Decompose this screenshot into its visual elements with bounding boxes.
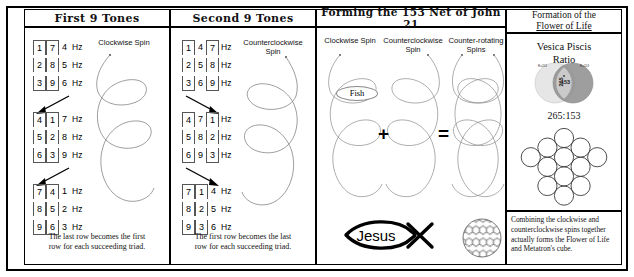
- triad-cell: 1: [33, 40, 46, 55]
- triad-row: 6 3 9 Hz: [33, 148, 82, 162]
- triad-cell: 6: [33, 148, 46, 163]
- triad-mid-3: 7 1 4 Hz 8 2 5 Hz 9 3 6 Hz: [182, 184, 231, 234]
- triad-cell: 7: [195, 112, 206, 126]
- triad-cell: 1: [46, 112, 59, 127]
- triad-cell: 6: [182, 148, 195, 163]
- triad-row: 1 7 4 Hz: [33, 40, 82, 54]
- triad-cell: 2: [59, 202, 70, 216]
- unit-label: Hz: [70, 202, 82, 216]
- triad-cell: 4: [33, 112, 46, 127]
- left-caption: The last row becomes the first row for e…: [26, 232, 168, 253]
- triad-cell: 3: [206, 148, 219, 163]
- flower-of-life-diagram: [520, 128, 608, 208]
- equals-symbol: =: [438, 124, 449, 143]
- triad-row: 2 5 8 Hz: [182, 58, 231, 72]
- triad-left-2: 4 1 7 Hz 5 2 8 Hz 6 3 9 Hz: [33, 112, 82, 162]
- panel-flower-header: Formation of the Flower of Life: [506, 9, 622, 33]
- panel-153-net-header: Forming the 153 Net of John 21: [316, 9, 506, 27]
- triad-cell: 2: [195, 202, 208, 216]
- mid-caption: The first row becomes the last row for e…: [172, 232, 314, 253]
- triad-cell: 3: [33, 76, 46, 91]
- triad-cell: 4: [208, 184, 219, 198]
- flower-of-life-small: [462, 218, 502, 258]
- triad-row: 8 5 2 Hz: [33, 202, 82, 216]
- triad-cell: 7: [33, 184, 46, 199]
- triad-cell: 5: [195, 58, 206, 72]
- unit-label: Hz: [219, 58, 231, 72]
- triad-cell: 4: [46, 184, 59, 199]
- triad-row: 6 9 3 Hz: [182, 148, 231, 162]
- triad-cell: 1: [195, 184, 208, 199]
- triad-cell: 2: [46, 130, 59, 144]
- triad-row: 5 2 8 Hz: [33, 130, 82, 144]
- triad-cell: 4: [195, 40, 206, 54]
- triad-cell: 8: [33, 202, 46, 216]
- triad-row: 4 7 1 Hz: [182, 112, 231, 126]
- triad-mid-2: 4 7 1 Hz 5 8 2 Hz 6 9 3 Hz: [182, 112, 231, 162]
- triad-cell: 6: [195, 76, 206, 90]
- flower-note-box: Combining the clockwise and counterclock…: [506, 211, 622, 265]
- panel-second-9-tones-title: Second 9 Tones: [192, 12, 293, 25]
- mid-spin-label: Counterclockwise Spin: [237, 38, 309, 57]
- counterclockwise-spiral-mid: [236, 56, 308, 221]
- panel-flower-title-line2: Flower of Life: [536, 21, 591, 32]
- triad-row: 8 2 5 Hz: [182, 202, 231, 216]
- left-caption-line2: row for each succeeding triad.: [26, 242, 168, 252]
- triad-cell: 5: [182, 130, 195, 144]
- jesus-fish-label: Jesus: [356, 227, 395, 244]
- fish-tag-text: Fish: [350, 88, 365, 98]
- triad-cell: 7: [59, 112, 70, 126]
- unit-label: Hz: [70, 112, 82, 126]
- triad-row: 4 1 7 Hz: [33, 112, 82, 126]
- unit-label: Hz: [70, 58, 82, 72]
- triad-cell: 9: [206, 76, 219, 91]
- triad-left-3: 7 4 1 Hz 8 5 2 Hz 9 6 3 Hz: [33, 184, 82, 234]
- triad-mid-1: 1 4 7 Hz 2 5 8 Hz 3 6 9 Hz: [182, 40, 231, 90]
- triad-cell: 8: [46, 58, 59, 72]
- left-spin-label: Clockwise Spin: [86, 38, 162, 47]
- unit-label: Hz: [70, 130, 82, 144]
- unit-label: Hz: [219, 40, 231, 54]
- triad-row: 7 4 1 Hz: [33, 184, 82, 198]
- flower-note-text: Combining the clockwise and counterclock…: [511, 215, 609, 253]
- triad-cell: 1: [206, 112, 219, 127]
- vesica-right-tag: R=153: [580, 64, 589, 68]
- triad-cell: 5: [46, 202, 59, 216]
- unit-label: Hz: [70, 40, 82, 54]
- triad-cell: 8: [206, 58, 219, 72]
- panel-first-9-tones-header: First 9 Tones: [24, 9, 170, 27]
- triad-cell: 9: [59, 148, 70, 162]
- triad-cell: 2: [33, 58, 46, 72]
- unit-label: Hz: [70, 148, 82, 162]
- mid-caption-line1: The first row becomes the last: [172, 232, 314, 242]
- triad-row: 2 8 5 Hz: [33, 58, 82, 72]
- triad-cell: 8: [182, 202, 195, 216]
- unit-label: Hz: [70, 184, 82, 198]
- triad-cell: 4: [182, 112, 195, 127]
- triad-cell: 9: [46, 76, 59, 91]
- triad-row: 5 8 2 Hz: [182, 130, 231, 144]
- triad-row: 1 4 7 Hz: [182, 40, 231, 54]
- triad-cell: 6: [59, 76, 70, 90]
- triad-cell: 3: [182, 76, 195, 91]
- triad-cell: 9: [195, 148, 206, 162]
- triad-cell: 8: [59, 130, 70, 144]
- panel-flower-title-line1: Formation of the: [532, 10, 596, 21]
- vesica-ratio: 265:153: [506, 110, 622, 121]
- triad-cell: 5: [33, 130, 46, 144]
- center-counterclockwise-spiral: [386, 52, 446, 217]
- triad-row: 3 6 9 Hz: [182, 76, 231, 90]
- unit-label: Hz: [219, 130, 231, 144]
- panel-second-9-tones-header: Second 9 Tones: [170, 9, 316, 27]
- center-col1-label: Clockwise Spin: [318, 36, 382, 45]
- clockwise-spiral-left: [88, 52, 160, 217]
- triad-cell: 1: [59, 184, 70, 198]
- triad-cell: 8: [195, 130, 206, 144]
- center-clockwise-spiral: [322, 52, 382, 217]
- unit-label: Hz: [219, 148, 231, 162]
- triad-cell: 2: [182, 58, 195, 72]
- unit-label: Hz: [219, 202, 231, 216]
- mid-caption-line2: row for each succeeding triad.: [172, 242, 314, 252]
- jesus-fish-icon: Jesus: [342, 216, 436, 254]
- triad-row: 3 9 6 Hz: [33, 76, 82, 90]
